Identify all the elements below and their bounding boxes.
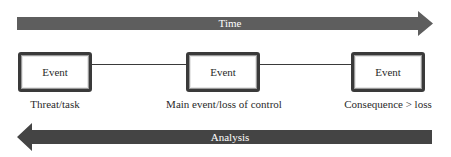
analysis-arrow-label: Analysis xyxy=(195,131,265,144)
